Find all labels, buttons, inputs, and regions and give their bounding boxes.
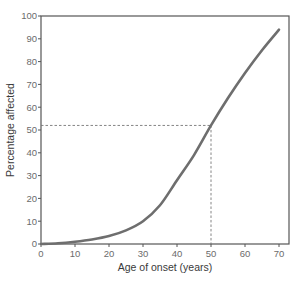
data-curve [41,30,279,244]
x-tick-label: 10 [70,248,81,259]
y-tick-label: 40 [26,147,37,158]
y-axis-title: Percentage affected [4,83,16,177]
y-tick-label: 70 [26,79,37,90]
x-tick-label: 40 [172,248,183,259]
y-tick-label: 100 [21,10,37,21]
y-tick-label: 90 [26,33,37,44]
x-tick-label: 20 [104,248,115,259]
x-tick-label: 60 [240,248,251,259]
x-tick-label: 50 [206,248,217,259]
x-tick-label: 30 [138,248,149,259]
x-axis-title: Age of onset (years) [118,261,213,273]
y-tick-label: 20 [26,193,37,204]
y-tick-label: 80 [26,56,37,67]
y-tick-label: 30 [26,170,37,181]
y-tick-label: 60 [26,102,37,113]
y-tick-label: 0 [32,238,37,249]
x-tick-label: 70 [274,248,285,259]
x-axis-ticks: 010203040506070 [38,244,284,259]
y-tick-label: 50 [26,124,37,135]
reference-dashed-lines [41,125,211,244]
x-tick-label: 0 [38,248,43,259]
y-axis-ticks: 0102030405060708090100 [21,10,41,249]
y-tick-label: 10 [26,216,37,227]
plot-frame [41,16,289,244]
plot-border [41,16,289,244]
line-chart: 0102030405060708090100 010203040506070 A… [0,0,300,281]
